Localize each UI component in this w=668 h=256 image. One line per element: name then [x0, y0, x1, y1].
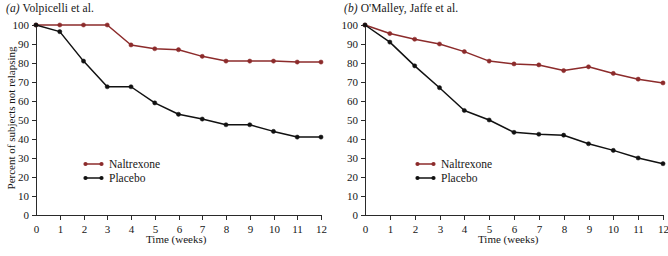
data-point-naltrexone [105, 23, 109, 27]
x-tick-label: 9 [248, 223, 254, 235]
x-tick-label: 3 [438, 223, 444, 235]
x-tick-label: 12 [316, 223, 327, 235]
data-point-naltrexone [271, 59, 275, 63]
data-point-placebo [487, 118, 491, 122]
data-point-placebo [537, 132, 541, 136]
data-point-placebo [319, 135, 323, 139]
data-point-naltrexone [437, 42, 441, 46]
y-tick-label: 30 [347, 152, 359, 164]
panel-a-xlabel: Time (weeks) [146, 233, 206, 245]
data-point-placebo [248, 123, 252, 127]
y-tick-label: 20 [347, 171, 359, 183]
series-line-naltrexone [36, 25, 321, 62]
data-point-naltrexone [537, 63, 541, 67]
y-tick-label: 90 [347, 38, 359, 50]
y-tick-label: 100 [342, 19, 359, 31]
y-tick-label: 60 [18, 95, 30, 107]
legend-marker-naltrexone [99, 162, 103, 166]
y-tick-label: 0 [353, 209, 359, 221]
data-point-placebo [437, 86, 441, 90]
y-tick-label: 80 [347, 57, 359, 69]
y-tick-label: 10 [18, 190, 30, 202]
data-point-naltrexone [176, 48, 180, 52]
series-line-naltrexone [365, 25, 663, 83]
legend-label-naltrexone: Naltrexone [109, 158, 160, 170]
data-point-naltrexone [129, 43, 133, 47]
x-tick-label: 2 [413, 223, 419, 235]
data-point-naltrexone [58, 23, 62, 27]
y-tick-label: 50 [347, 114, 359, 126]
data-point-placebo [224, 123, 228, 127]
data-point-naltrexone [295, 60, 299, 64]
data-point-placebo [176, 112, 180, 116]
data-point-placebo [34, 23, 38, 27]
data-point-naltrexone [586, 65, 590, 69]
y-tick-label: 50 [18, 114, 30, 126]
panel-a-plot: 01020304050607080901000123456789101112Na… [0, 0, 334, 256]
legend-marker-naltrexone [431, 162, 435, 166]
data-point-naltrexone [153, 47, 157, 51]
x-tick-label: 0 [363, 223, 369, 235]
panel-b: (b) O'Malley, Jaffe et al. 0102030405060… [334, 0, 668, 256]
y-tick-label: 40 [18, 133, 30, 145]
legend-label-placebo: Placebo [441, 172, 478, 184]
y-tick-label: 100 [13, 19, 30, 31]
x-tick-label: 1 [388, 223, 394, 235]
data-point-placebo [105, 85, 109, 89]
x-tick-label: 3 [105, 223, 111, 235]
data-point-placebo [200, 117, 204, 121]
x-tick-label: 10 [608, 223, 620, 235]
y-tick-label: 10 [347, 190, 359, 202]
x-tick-label: 0 [34, 223, 40, 235]
x-tick-label: 8 [562, 223, 568, 235]
data-point-placebo [413, 64, 417, 68]
data-point-naltrexone [224, 59, 228, 63]
y-tick-label: 90 [18, 38, 30, 50]
data-point-placebo [661, 162, 665, 166]
x-tick-label: 9 [587, 223, 593, 235]
x-tick-label: 11 [292, 223, 303, 235]
y-tick-label: 80 [18, 57, 30, 69]
series-line-placebo [365, 25, 663, 164]
data-point-placebo [462, 108, 466, 112]
y-tick-label: 60 [347, 95, 359, 107]
data-point-placebo [636, 156, 640, 160]
data-point-naltrexone [200, 54, 204, 58]
data-point-naltrexone [388, 31, 392, 35]
data-point-naltrexone [636, 77, 640, 81]
data-point-placebo [58, 30, 62, 34]
data-point-naltrexone [562, 69, 566, 73]
data-point-placebo [295, 135, 299, 139]
data-point-placebo [388, 40, 392, 44]
legend-marker-placebo [431, 176, 435, 180]
y-tick-label: 70 [18, 76, 30, 88]
data-point-naltrexone [487, 59, 491, 63]
x-tick-label: 2 [82, 223, 88, 235]
data-point-naltrexone [319, 60, 323, 64]
x-tick-label: 11 [633, 223, 644, 235]
panel-b-xlabel: Time (weeks) [478, 233, 538, 245]
figure-container: (a) Volpicelli et al. Percent of subject… [0, 0, 668, 256]
y-tick-label: 70 [347, 76, 359, 88]
data-point-placebo [363, 23, 367, 27]
legend-marker-placebo [83, 176, 87, 180]
data-point-placebo [562, 133, 566, 137]
y-tick-label: 30 [18, 152, 30, 164]
y-tick-label: 0 [24, 209, 30, 221]
data-point-placebo [81, 59, 85, 63]
legend-label-placebo: Placebo [109, 172, 146, 184]
legend-marker-naltrexone [415, 162, 419, 166]
x-tick-label: 4 [129, 223, 135, 235]
data-point-naltrexone [512, 62, 516, 66]
legend-marker-placebo [99, 176, 103, 180]
x-tick-label: 8 [224, 223, 230, 235]
x-tick-label: 4 [462, 223, 468, 235]
panel-a: (a) Volpicelli et al. Percent of subject… [0, 0, 334, 256]
y-tick-label: 40 [347, 133, 359, 145]
data-point-placebo [611, 148, 615, 152]
data-point-placebo [586, 142, 590, 146]
y-tick-label: 20 [18, 171, 30, 183]
data-point-naltrexone [462, 50, 466, 54]
axis-lines [366, 23, 664, 216]
data-point-naltrexone [248, 59, 252, 63]
